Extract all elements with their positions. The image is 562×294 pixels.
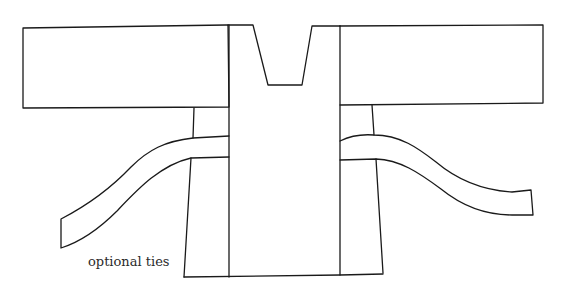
left-side-panel-lower-edge (184, 158, 191, 277)
hem-line (184, 274, 383, 277)
right-side-panel-lower-edge (376, 159, 383, 273)
left-side-panel-edge (193, 108, 194, 138)
right-sleeve (340, 25, 543, 105)
left-sleeve (23, 25, 229, 108)
right-side-panel-edge (372, 105, 374, 135)
optional-ties-label: optional ties (88, 254, 170, 269)
neckline (228, 25, 340, 85)
right-tie (340, 135, 533, 215)
garment-diagram (0, 0, 562, 294)
left-tie (61, 136, 229, 248)
